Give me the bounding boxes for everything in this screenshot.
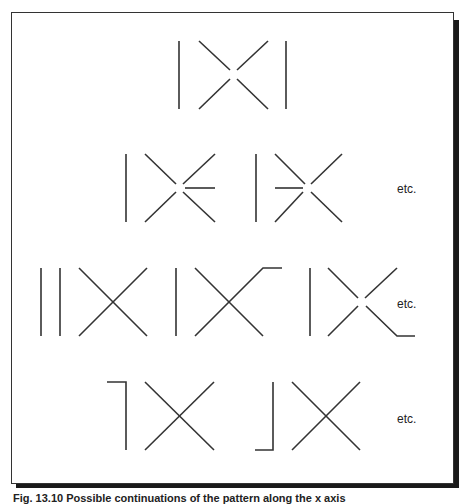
etc-label-row-4: etc. — [397, 412, 416, 426]
row-4-pattern-b — [255, 382, 360, 450]
row-2-pattern-a — [126, 154, 215, 222]
row-1-pattern — [179, 41, 286, 109]
etc-label-row-2: etc. — [397, 182, 416, 196]
row-3-pattern-b — [176, 268, 282, 336]
etc-label-row-3: etc. — [397, 297, 416, 311]
row-2-pattern-b — [256, 154, 342, 222]
row-4-pattern-a — [107, 382, 214, 450]
row-3-pattern-a — [41, 268, 147, 336]
figure-caption: Fig. 13.10 Possible continuations of the… — [13, 492, 346, 504]
